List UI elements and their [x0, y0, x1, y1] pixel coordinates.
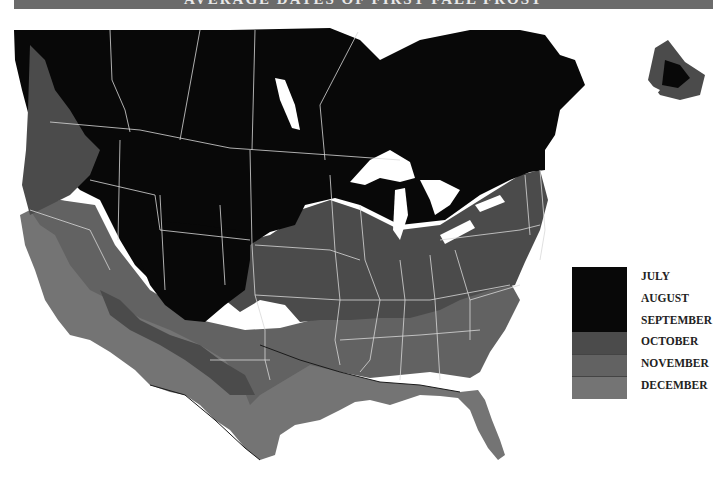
legend-swatch — [572, 332, 627, 354]
legend-swatch — [572, 376, 627, 399]
legend-swatch — [572, 289, 627, 311]
legend-label: JULY — [641, 270, 670, 282]
legend-swatch — [572, 354, 627, 377]
legend: JULY AUGUST SEPTEMBER OCTOBER NOVEMBER D… — [572, 267, 712, 398]
legend-item-december: DECEMBER — [572, 376, 712, 398]
legend-swatch — [572, 267, 627, 289]
legend-label: AUGUST — [641, 292, 689, 304]
legend-swatch — [572, 311, 627, 333]
legend-label: SEPTEMBER — [641, 314, 712, 326]
legend-item-september: SEPTEMBER — [572, 311, 712, 333]
legend-item-october: OCTOBER — [572, 332, 712, 354]
legend-label: OCTOBER — [641, 335, 698, 347]
legend-item-november: NOVEMBER — [572, 354, 712, 376]
legend-item-july: JULY — [572, 267, 712, 289]
legend-label: DECEMBER — [641, 379, 707, 391]
legend-item-august: AUGUST — [572, 289, 712, 311]
frost-map — [0, 0, 726, 491]
legend-label: NOVEMBER — [641, 357, 709, 369]
